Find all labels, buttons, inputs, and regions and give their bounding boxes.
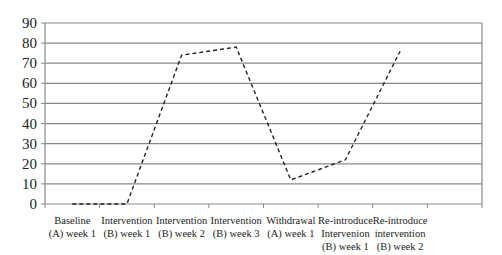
y-tick-label: 30	[22, 136, 37, 152]
x-axis: Baseline(A) week 1Intervention(B) week 1…	[45, 204, 482, 253]
y-axis-ticks: 0102030405060708090	[22, 15, 45, 212]
line-chart: 0102030405060708090 Baseline(A) week 1In…	[0, 0, 502, 255]
data-series	[72, 47, 400, 204]
x-tick-label: Intervention(B) week 3	[211, 215, 263, 240]
x-tick-label: Re-introduceIntervenion(B) week 1	[318, 215, 373, 253]
y-tick-label: 60	[22, 75, 37, 91]
x-tick-label: Baseline(A) week 1	[49, 215, 96, 240]
x-tick-label: Intervention(B) week 2	[156, 215, 208, 240]
y-tick-label: 90	[22, 15, 37, 31]
y-tick-label: 10	[22, 176, 37, 192]
y-tick-label: 70	[22, 55, 37, 71]
y-tick-label: 80	[22, 35, 37, 51]
x-tick-label: Withdrawal(A) week 1	[266, 215, 315, 240]
series-line	[72, 47, 400, 204]
x-tick-label: Re-introduceintervention(B) week 2	[373, 215, 428, 253]
y-tick-label: 0	[30, 196, 38, 212]
y-tick-label: 20	[22, 156, 37, 172]
x-tick-label: Intervention(B) week 1	[101, 215, 153, 240]
y-tick-label: 50	[22, 95, 37, 111]
chart-svg: 0102030405060708090 Baseline(A) week 1In…	[0, 0, 502, 255]
y-tick-label: 40	[22, 116, 37, 132]
gridlines	[45, 23, 482, 204]
